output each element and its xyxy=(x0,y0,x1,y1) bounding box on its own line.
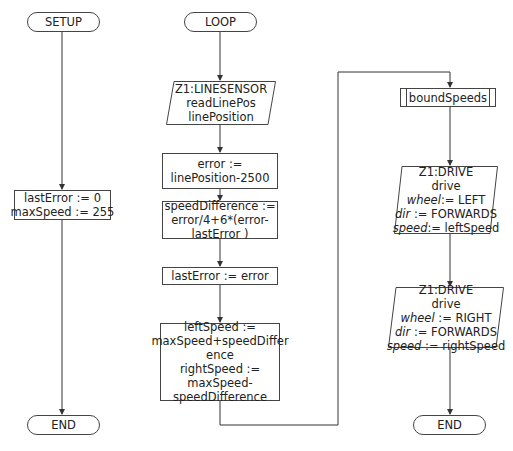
assign-last-error: lastError := 0 xyxy=(24,191,101,205)
param-name: speed xyxy=(393,221,428,235)
param-name: dir xyxy=(395,325,410,339)
error-calc-block[interactable]: error := linePosition-2500 xyxy=(162,153,278,189)
loop-end-label: END xyxy=(437,418,462,432)
bound-speeds-label: boundSpeeds xyxy=(409,91,487,105)
loop-start-terminal[interactable]: LOOP xyxy=(184,12,257,32)
param-name: speed xyxy=(387,339,422,353)
setup-start-terminal[interactable]: SETUP xyxy=(27,12,100,32)
setup-end-terminal[interactable]: END xyxy=(27,415,100,435)
loop-end-terminal[interactable]: END xyxy=(413,415,486,435)
bound-speeds-subroutine[interactable]: boundSpeeds xyxy=(400,88,496,107)
param-name: dir xyxy=(395,207,410,221)
speeds-line: rightSpeed := xyxy=(180,362,260,376)
speed-diff-line: speedDifference := xyxy=(164,199,275,213)
param-name: wheel xyxy=(407,193,441,207)
speeds-line: maxSpeed- xyxy=(187,376,252,390)
param-value: := FORWARDS xyxy=(414,207,497,221)
setup-end-label: END xyxy=(51,418,76,432)
last-error-line: lastError := error xyxy=(171,269,268,283)
param-value: := RIGHT xyxy=(438,311,491,325)
speeds-line: speedDifference xyxy=(173,390,267,404)
speed-diff-line: error/4+6*(error- xyxy=(171,213,268,227)
speeds-line: maxSpeed+speedDiffer xyxy=(151,334,288,348)
setup-assign-block[interactable]: lastError := 0 maxSpeed := 255 xyxy=(14,190,111,220)
sensor-method: readLinePos xyxy=(175,96,267,110)
param-value: := rightSpeed xyxy=(425,339,505,353)
speeds-line: ence xyxy=(206,348,234,362)
last-error-block[interactable]: lastError := error xyxy=(162,267,278,285)
speed-diff-line: lastError ) xyxy=(192,227,249,241)
speed-difference-block[interactable]: speedDifference := error/4+6*(error- las… xyxy=(162,201,278,239)
error-calc-line: error := xyxy=(197,157,242,171)
drive-method: drive xyxy=(393,179,500,193)
assign-max-speed: maxSpeed := 255 xyxy=(11,205,115,219)
read-line-sensor-io[interactable]: Z1:LINESENSOR readLinePos linePosition xyxy=(166,81,276,125)
param-value: := leftSpeed xyxy=(427,221,499,235)
drive-method: drive xyxy=(387,297,506,311)
sensor-component: Z1:LINESENSOR xyxy=(175,82,267,96)
sensor-output-var: linePosition xyxy=(175,110,267,124)
error-calc-line: linePosition-2500 xyxy=(171,171,270,185)
loop-start-label: LOOP xyxy=(205,15,236,29)
drive-component: Z1:DRIVE xyxy=(393,165,500,179)
drive-left-io[interactable]: Z1:DRIVE drive wheel:= LEFT dir := FORWA… xyxy=(394,166,498,234)
drive-component: Z1:DRIVE xyxy=(387,283,506,297)
drive-right-io[interactable]: Z1:DRIVE drive wheel := RIGHT dir := FOR… xyxy=(388,287,504,348)
param-value: := LEFT xyxy=(441,193,485,207)
left-right-speed-block[interactable]: leftSpeed := maxSpeed+speedDiffer ence r… xyxy=(160,323,280,401)
param-value: := FORWARDS xyxy=(414,325,497,339)
setup-start-label: SETUP xyxy=(45,15,82,29)
speeds-line: leftSpeed := xyxy=(184,320,256,334)
param-name: wheel xyxy=(401,311,435,325)
